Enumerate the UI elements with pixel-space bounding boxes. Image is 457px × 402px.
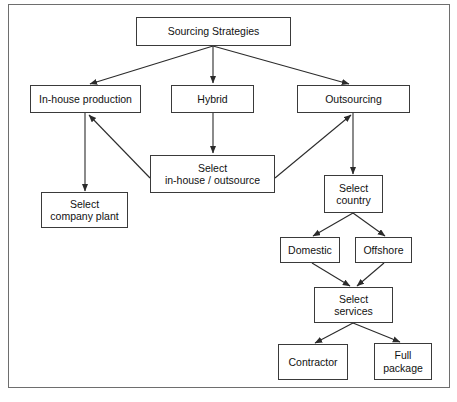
node-full-package[interactable]: Full package [374,343,432,380]
node-select-country[interactable]: Select country [324,175,383,213]
node-hybrid[interactable]: Hybrid [171,85,254,113]
node-outsourcing[interactable]: Outsourcing [297,85,410,113]
figure-caption-fragment [8,390,158,401]
node-in-house-production[interactable]: In-house production [30,85,141,113]
node-offshore[interactable]: Offshore [355,237,412,263]
node-sourcing-strategies[interactable]: Sourcing Strategies [136,17,291,46]
node-domestic[interactable]: Domestic [280,237,340,263]
figure-canvas: Sourcing Strategies In-house production … [0,0,457,402]
node-select-in-house-outsource[interactable]: Select in-house / outsource [150,155,275,193]
node-select-company-plant[interactable]: Select company plant [41,192,128,228]
node-select-services[interactable]: Select services [314,287,393,323]
node-contractor[interactable]: Contractor [278,344,348,380]
